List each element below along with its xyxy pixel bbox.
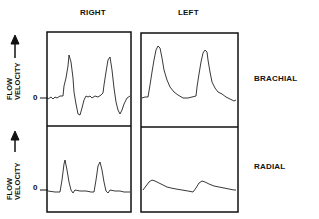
arrow-up-icon (11, 35, 19, 58)
waveform-left-radial (143, 180, 236, 192)
waveform-left-brachial (142, 46, 236, 101)
arrow-up-icon (11, 131, 19, 152)
waveform-right-brachial (48, 55, 130, 115)
waveform-right-radial (48, 160, 130, 193)
left-panel-frame (141, 33, 238, 212)
right-panel-frame (47, 32, 131, 212)
waveform-figure (0, 0, 319, 219)
